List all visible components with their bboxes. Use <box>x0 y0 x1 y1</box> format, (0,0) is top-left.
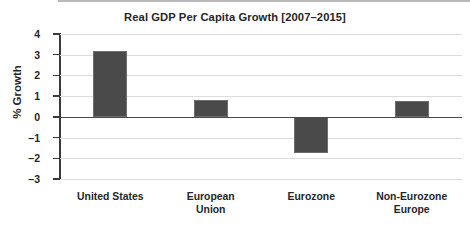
bar[interactable] <box>294 117 328 153</box>
x-axis-category-label: Non-EurozoneEurope <box>362 190 463 216</box>
zero-line <box>60 117 462 118</box>
x-axis-category-line: Europe <box>362 203 463 216</box>
x-axis-category-line: United States <box>60 190 161 203</box>
x-axis-category-line: Non-Eurozone <box>362 190 463 203</box>
gridline <box>60 138 462 139</box>
chart-figure: Real GDP Per Capita Growth [2007–2015] %… <box>0 0 470 245</box>
y-tick-label: –2 <box>0 152 40 164</box>
chart-title: Real GDP Per Capita Growth [2007–2015] <box>0 11 470 23</box>
x-axis-category-line: European <box>161 190 262 203</box>
y-tick-label: –3 <box>0 173 40 185</box>
y-tick-label: –1 <box>0 132 40 144</box>
gridline <box>60 179 462 180</box>
bar[interactable] <box>395 101 429 117</box>
x-axis-category-label: United States <box>60 190 161 203</box>
y-axis-label: % Growth <box>11 52 23 132</box>
x-axis-category-label: Eurozone <box>261 190 362 203</box>
bar[interactable] <box>93 51 127 117</box>
bar[interactable] <box>194 100 228 117</box>
y-tick-label: 4 <box>0 28 40 40</box>
gridline <box>60 158 462 159</box>
top-divider <box>58 0 470 2</box>
x-axis-category-line: Union <box>161 203 262 216</box>
gridline <box>60 34 462 35</box>
x-axis-category-label: EuropeanUnion <box>161 190 262 216</box>
x-axis-category-line: Eurozone <box>261 190 362 203</box>
